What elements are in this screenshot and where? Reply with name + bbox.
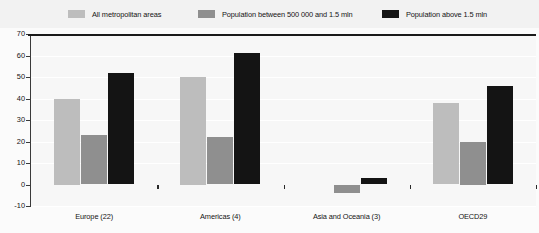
legend-swatch-icon — [198, 10, 215, 18]
x-axis-tick — [536, 185, 537, 189]
x-axis-category-label: Asia and Oceania (3) — [287, 212, 407, 221]
x-axis-tick — [410, 185, 411, 189]
y-axis-tick-label: 30 — [3, 116, 25, 124]
legend-item-population-above-1-5mln: Population above 1.5 mln — [382, 8, 487, 20]
bar — [487, 86, 513, 185]
bar — [207, 137, 233, 184]
gridline — [31, 206, 536, 207]
legend-label: Population between 500 000 and 1.5 mln — [222, 10, 353, 19]
y-axis-tick-label: -10 — [3, 202, 25, 210]
x-axis-category-label: Europe (22) — [34, 212, 154, 221]
y-axis-tick-label: 0 — [3, 181, 25, 189]
gridline — [31, 99, 536, 100]
bar — [81, 135, 107, 184]
plot-area — [31, 34, 536, 206]
legend-swatch-icon — [382, 10, 399, 18]
y-axis-tick-label: 40 — [3, 95, 25, 103]
legend-swatch-icon — [68, 10, 85, 18]
legend-item-all-metropolitan-areas: All metropolitan areas — [68, 8, 161, 20]
y-axis-tick-label: 50 — [3, 73, 25, 81]
y-axis-tick-labels: 706050403020100-10 — [0, 0, 25, 233]
y-axis-tick-label: 10 — [3, 159, 25, 167]
bar — [433, 103, 459, 185]
y-axis-tick-label: 60 — [3, 52, 25, 60]
bar — [180, 77, 206, 185]
bar — [334, 185, 360, 194]
x-axis-category-label: OECD29 — [413, 212, 533, 221]
y-axis-tick-label: 20 — [3, 138, 25, 146]
legend-label: Population above 1.5 mln — [406, 10, 487, 19]
legend-item-population-500k-to-1-5mln: Population between 500 000 and 1.5 mln — [198, 8, 353, 20]
legend-label: All metropolitan areas — [92, 10, 161, 19]
bar — [361, 178, 387, 184]
bar-chart: All metropolitan areas Population betwee… — [0, 0, 539, 233]
x-axis-tick — [284, 185, 285, 189]
bar — [54, 99, 80, 185]
y-axis-tick-label: 70 — [3, 30, 25, 38]
x-axis-category-label: Americas (4) — [160, 212, 280, 221]
bar — [108, 73, 134, 185]
x-axis-tick — [157, 185, 158, 189]
bar — [460, 142, 486, 185]
gridline — [31, 120, 536, 121]
zero-baseline — [28, 34, 536, 36]
chart-legend: All metropolitan areas Population betwee… — [0, 0, 539, 28]
gridline — [31, 56, 536, 57]
gridline — [31, 77, 536, 78]
bar — [234, 53, 260, 184]
